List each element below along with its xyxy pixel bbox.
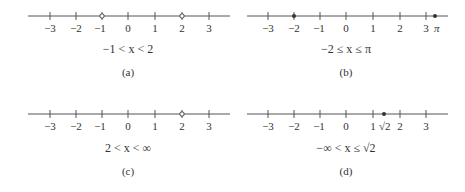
- tick-label: −1: [313, 120, 325, 132]
- inequality-label: −1 < x < 2: [103, 42, 153, 56]
- tick-label: −2: [70, 22, 82, 34]
- inequality-label: 2 < x < ∞: [105, 141, 151, 155]
- tick-label: −3: [262, 120, 274, 132]
- number-line-b: −3 −2 −1 0 1 2 3 π −2 ≤ x ≤ π (b): [232, 0, 465, 96]
- inequality-label: −∞ < x ≤ √2: [316, 141, 375, 155]
- panel-c: −3 −2 −1 0 1 2 3 2 < x < ∞ (c): [0, 96, 232, 192]
- tick-label: 2: [397, 22, 403, 34]
- tick-label: 2: [397, 120, 403, 132]
- panel-caption: (b): [340, 66, 353, 79]
- inequality-label: −2 ≤ x ≤ π: [321, 42, 371, 56]
- tick-label: 3: [423, 120, 429, 132]
- tick-label: 1: [370, 120, 376, 132]
- tick-label: −1: [94, 120, 106, 132]
- tick-label: 0: [125, 120, 131, 132]
- open-endpoint-icon: [100, 14, 104, 18]
- tick-label: −2: [288, 22, 300, 34]
- panel-a: −3 −2 −1 0 1 2 3 −1 < x < 2 (a): [0, 0, 232, 96]
- tick-label: 1: [152, 22, 158, 34]
- tick-label: −2: [288, 120, 300, 132]
- tick-label: −3: [44, 22, 56, 34]
- panel-caption: (c): [122, 165, 135, 178]
- open-endpoint-icon: [180, 112, 184, 116]
- tick-label: 3: [206, 22, 212, 34]
- tick-label: −3: [44, 120, 56, 132]
- tick-label: 3: [423, 22, 429, 34]
- tick-label: 2: [179, 120, 185, 132]
- tick-label: −3: [262, 22, 274, 34]
- number-line-d: −3 −2 −1 0 1 2 3 √2 −∞ < x ≤ √2 (d): [232, 96, 465, 192]
- tick-label: −1: [313, 22, 325, 34]
- tick-label: 0: [125, 22, 131, 34]
- tick-label: 0: [343, 22, 349, 34]
- tick-label: 2: [179, 22, 185, 34]
- tick-label: 3: [206, 120, 212, 132]
- closed-endpoint-icon: [292, 14, 296, 18]
- panel-caption: (d): [340, 165, 353, 178]
- pi-label: π: [434, 22, 440, 34]
- panel-b: −3 −2 −1 0 1 2 3 π −2 ≤ x ≤ π (b): [232, 0, 464, 96]
- tick-label: 1: [370, 22, 376, 34]
- closed-endpoint-icon: [382, 112, 386, 116]
- closed-endpoint-icon: [433, 14, 437, 18]
- panel-d: −3 −2 −1 0 1 2 3 √2 −∞ < x ≤ √2 (d): [232, 96, 464, 192]
- tick-label: −2: [70, 120, 82, 132]
- panel-caption: (a): [122, 66, 135, 79]
- tick-label: 0: [343, 120, 349, 132]
- open-endpoint-icon: [180, 14, 184, 18]
- tick-label: 1: [152, 120, 158, 132]
- number-line-c: −3 −2 −1 0 1 2 3 2 < x < ∞ (c): [0, 96, 232, 192]
- number-line-a: −3 −2 −1 0 1 2 3 −1 < x < 2 (a): [0, 0, 232, 96]
- sqrt2-label: √2: [379, 120, 391, 132]
- tick-label: −1: [94, 22, 106, 34]
